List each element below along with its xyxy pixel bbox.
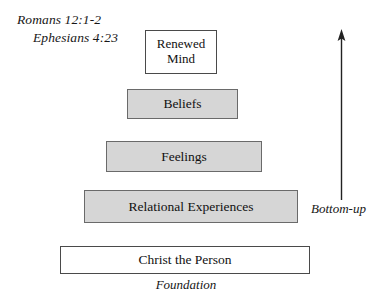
tier-renewed-mind: Renewed Mind — [145, 30, 217, 74]
caption-foundation: Foundation — [0, 277, 372, 293]
scripture-reference-romans: Romans 12:1-2 — [17, 12, 101, 28]
pyramid-diagram: Romans 12:1-2 Ephesians 4:23 Renewed Min… — [0, 0, 392, 306]
upward-arrow-icon — [326, 28, 358, 200]
caption-bottom-up: Bottom-up — [311, 201, 366, 217]
tier-feelings: Feelings — [106, 141, 262, 172]
tier-beliefs: Beliefs — [127, 89, 238, 119]
scripture-reference-ephesians: Ephesians 4:23 — [33, 30, 118, 46]
tier-relational-experiences: Relational Experiences — [84, 190, 298, 223]
tier-christ-the-person: Christ the Person — [60, 246, 310, 274]
